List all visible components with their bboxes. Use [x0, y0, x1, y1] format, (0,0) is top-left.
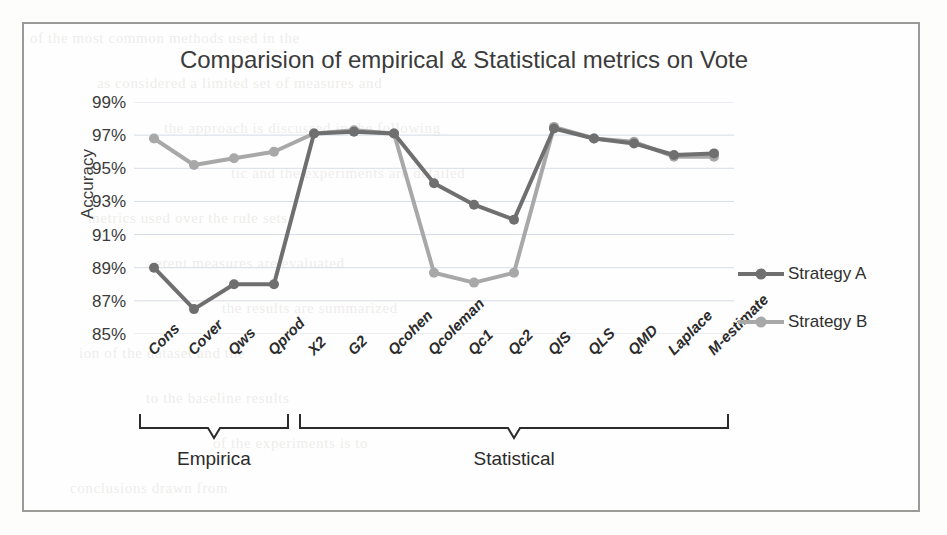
x-tick-label: X2	[304, 333, 329, 358]
x-tick-label: Qc2	[504, 326, 536, 358]
x-tick-label: Cover	[184, 316, 226, 358]
legend-item-strategy-b: Strategy B	[738, 312, 867, 332]
legend-marker-strategy-b	[738, 314, 784, 330]
x-tick-label: Cons	[144, 319, 183, 358]
x-tick-label: QLS	[584, 324, 618, 358]
legend-marker-strategy-a	[738, 266, 784, 282]
x-tick-label: G2	[344, 332, 370, 358]
group-label-statistical: Statistical	[474, 448, 555, 470]
x-tick-label: QIS	[544, 328, 574, 358]
x-tick-label: Qc1	[464, 326, 496, 358]
page-background: of the most common methods used in theas…	[0, 0, 947, 535]
group-label-empirical: Empirica	[177, 448, 251, 470]
figure-frame: Comparision of empirical & Statistical m…	[22, 22, 920, 512]
x-tick-label: Qprod	[264, 314, 308, 358]
legend-item-strategy-a: Strategy A	[738, 264, 866, 284]
x-tick-label: Qws	[224, 324, 258, 358]
x-tick-label: QMD	[624, 321, 661, 358]
legend-label-strategy-a: Strategy A	[788, 264, 866, 284]
legend-label-strategy-b: Strategy B	[788, 312, 867, 332]
